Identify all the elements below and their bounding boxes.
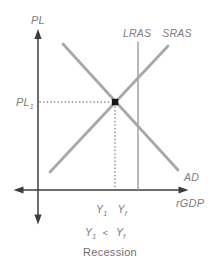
y-axis-label: PL [31, 14, 45, 26]
y-axis-arrow-down-icon [34, 215, 41, 225]
caption-text: Recession [83, 246, 137, 258]
equilibrium-point [112, 99, 119, 106]
price-level-label-main: PL [16, 96, 30, 108]
inequality-lhs-sub: 1 [92, 233, 96, 240]
price-level-label-sub: 1 [30, 103, 34, 110]
sras-label: SRAS [162, 27, 191, 39]
x-axis-label: rGDP [176, 197, 205, 209]
inequality-operator: < [103, 227, 109, 238]
recession-diagram-page: PL LRAS SRAS AD rGDP PL1 Y1 Yf Y1<Yf Rec… [0, 0, 222, 268]
axes [14, 29, 189, 225]
inequality-rhs-sub: f [123, 233, 126, 240]
output-y1-label: Y1 [96, 203, 107, 217]
recession-diagram: PL LRAS SRAS AD rGDP PL1 Y1 Yf Y1<Yf Rec… [0, 0, 222, 268]
output-yf-label: Yf [118, 203, 128, 217]
price-level-label: PL1 [16, 96, 34, 110]
lras-label: LRAS [123, 27, 151, 39]
ad-curve [63, 44, 178, 170]
ad-label: AD [183, 171, 199, 183]
x-axis-arrow-right-icon [179, 186, 189, 193]
output-y1-sub: 1 [103, 210, 107, 217]
y-axis-arrow-up-icon [34, 29, 41, 39]
output-yf-sub: f [125, 210, 128, 217]
x-axis-arrow-left-icon [14, 186, 24, 193]
sras-curve [50, 46, 168, 172]
inequality-text: Y1<Yf [85, 226, 126, 240]
